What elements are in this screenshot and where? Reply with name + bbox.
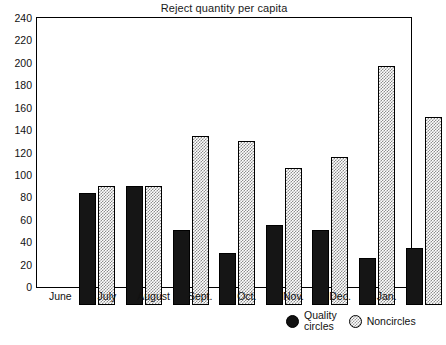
stippled-circle-icon: [349, 315, 362, 328]
y-axis-tick-label: 220: [14, 35, 32, 45]
y-axis-tick-label: 40: [20, 237, 32, 247]
bar: [331, 157, 348, 305]
bar: [285, 168, 302, 305]
x-axis-label-group: JuneJulyAugustSept.Oct.Nov.Dec.Jan.: [37, 290, 410, 306]
legend-entry-noncircles: Noncircles: [349, 315, 416, 328]
bar: [378, 66, 395, 305]
x-axis-tick-label: August: [137, 290, 170, 302]
bar: [98, 186, 115, 305]
bar: [192, 136, 209, 305]
y-axis-tick-label: 60: [20, 215, 32, 225]
y-axis-tick-label: 140: [14, 125, 32, 135]
y-axis-tick-label: 180: [14, 80, 32, 90]
x-axis-tick-label: Jan.: [377, 290, 397, 302]
chart-legend: Quality circles Noncircles: [286, 310, 416, 332]
x-axis-tick-label: Nov.: [283, 290, 304, 302]
bar: [79, 193, 96, 305]
y-axis-label-group: 020406080100120140160180200220240: [0, 17, 32, 288]
bars-layer: [74, 36, 446, 305]
x-axis-tick-label: June: [49, 290, 72, 302]
y-axis-tick-label: 100: [14, 170, 32, 180]
y-axis-tick-label: 120: [14, 148, 32, 158]
bar: [126, 186, 143, 305]
legend-label: Quality circles: [304, 310, 337, 332]
legend-entry-quality-circles: Quality circles: [286, 310, 337, 332]
bar: [238, 141, 255, 305]
y-axis-tick-label: 240: [14, 13, 32, 23]
x-axis-tick-label: Sept.: [188, 290, 213, 302]
y-axis-tick-label: 0: [26, 282, 32, 292]
x-axis-tick-label: July: [98, 290, 117, 302]
y-axis-tick-label: 200: [14, 58, 32, 68]
bar: [425, 117, 442, 305]
y-axis-tick-label: 160: [14, 103, 32, 113]
y-axis-tick-label: 80: [20, 192, 32, 202]
bar: [145, 186, 162, 305]
x-axis-tick-label: Dec.: [329, 290, 351, 302]
chart-title: Reject quantity per capita: [36, 2, 412, 14]
plot-area: [36, 17, 412, 288]
legend-label: Noncircles: [367, 316, 416, 327]
y-axis-tick-label: 20: [20, 260, 32, 270]
x-axis-tick-label: Oct.: [237, 290, 256, 302]
filled-circle-icon: [286, 315, 299, 328]
